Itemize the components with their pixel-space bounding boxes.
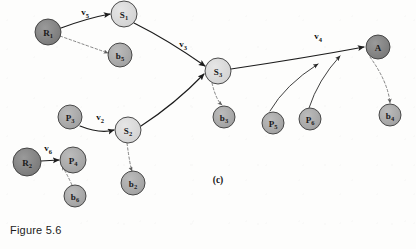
node-circle-R1 [35,19,61,45]
node-b5[interactable]: b5 [108,43,132,67]
transition-edge-S2-to-S3 [141,74,204,126]
node-S2[interactable]: S2 [115,117,141,143]
node-circle-S2 [115,117,141,143]
transition-edge-P6-to-A [309,56,340,108]
node-group: R1S1b5S3b3Ab4P5P6P3S2R2P4b6b2 [13,1,401,207]
node-circle-P3 [58,105,82,129]
panel-label: (c) [213,175,224,186]
transition-edge-R2-to-P4 [41,160,59,161]
node-circle-A [366,35,390,59]
node-circle-R2 [13,148,41,176]
node-P4[interactable]: P4 [60,147,86,173]
node-circle-b5 [108,43,132,67]
node-S3[interactable]: S3 [205,58,231,84]
node-b4[interactable]: b4 [379,104,401,126]
figure-page: R1S1b5S3b3Ab4P5P6P3S2R2P4b6b2 v5v3v4v2v6… [0,0,416,249]
edge-label-group: v5v3v4v2v6 [44,7,323,154]
node-P5[interactable]: P5 [262,112,284,134]
node-R1[interactable]: R1 [35,19,61,45]
node-circle-b6 [64,185,86,207]
node-S1[interactable]: S1 [111,1,137,27]
byproduct-edge-S2-to-b2 [127,143,132,171]
node-R2[interactable]: R2 [13,148,41,176]
node-b2[interactable]: b2 [121,171,145,195]
edge-label-v6: v6 [44,143,53,154]
diagram-canvas: R1S1b5S3b3Ab4P5P6P3S2R2P4b6b2 v5v3v4v2v6… [0,0,416,249]
node-P3[interactable]: P3 [58,105,82,129]
node-b6[interactable]: b6 [64,185,86,207]
byproduct-edge-A-to-b4 [370,57,390,103]
node-A[interactable]: A [366,35,390,59]
node-circle-S1 [111,1,137,27]
edge-label-v2: v2 [96,112,104,123]
node-circle-b2 [121,171,145,195]
node-circle-P6 [299,108,321,130]
transition-edge-S3-to-A [231,47,364,69]
node-circle-P4 [60,147,86,173]
node-P6[interactable]: P6 [299,108,321,130]
byproduct-edge-S3-to-b3 [212,83,222,105]
node-circle-b4 [379,104,401,126]
edge-label-v5: v5 [81,7,90,18]
transition-edge-P3-to-S2 [80,126,114,131]
transition-edge-S1-to-S3 [134,23,205,66]
node-circle-b3 [213,106,235,128]
edge-label-v4: v4 [314,31,323,42]
node-circle-P5 [262,112,284,134]
edge-label-v3: v3 [179,39,188,50]
node-b3[interactable]: b3 [213,106,235,128]
byproduct-edge-R1-to-b5 [60,36,108,53]
figure-caption: Figure 5.6 [10,224,62,236]
node-circle-S3 [205,58,231,84]
